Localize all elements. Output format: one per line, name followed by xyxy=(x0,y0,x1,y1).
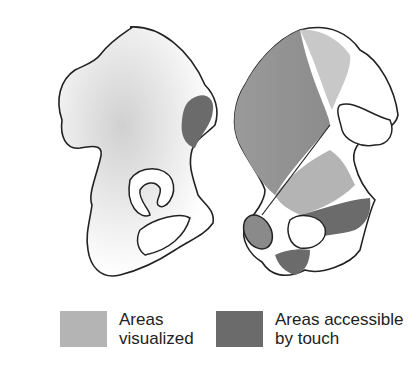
legend-label-visualized: Areas visualized xyxy=(119,310,194,348)
legend-swatch-visualized xyxy=(60,311,107,347)
pelvis-illustration xyxy=(0,0,420,290)
legend-label-line2: visualized xyxy=(119,329,194,348)
legend-swatch-touch xyxy=(216,311,263,347)
legend-label-line1: Areas xyxy=(119,310,194,329)
legend-label-touch: Areas accessible by touch xyxy=(275,310,404,348)
right-bone xyxy=(235,28,398,276)
legend-item-touch: Areas accessible by touch xyxy=(216,310,404,348)
legend-item-visualized: Areas visualized xyxy=(60,310,194,348)
legend-label-line2: by touch xyxy=(275,329,404,348)
left-bone xyxy=(59,27,217,276)
legend-label-line1: Areas accessible xyxy=(275,310,404,329)
